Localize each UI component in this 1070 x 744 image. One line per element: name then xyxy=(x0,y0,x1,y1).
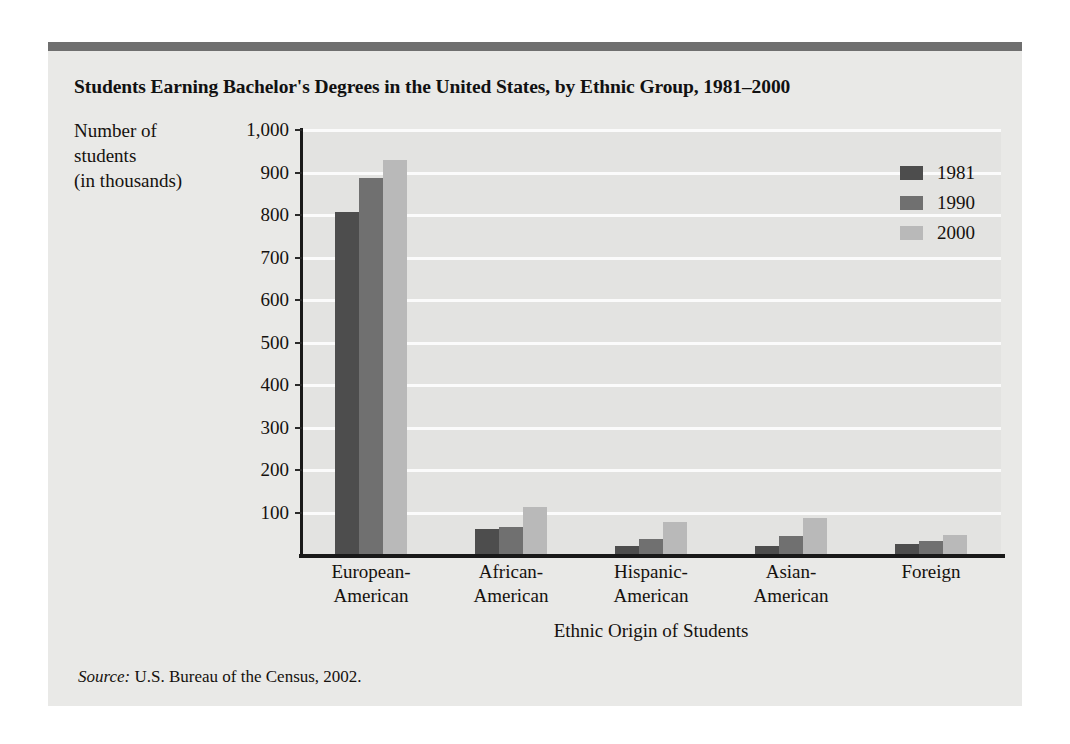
bar-foreign-1990 xyxy=(919,541,943,555)
x-axis-category-label: Foreign xyxy=(861,560,1001,584)
bar-european-american-1981 xyxy=(335,212,359,555)
bar-african-american-1981 xyxy=(475,529,499,555)
x-axis-category-label: African-American xyxy=(441,560,581,608)
x-axis-category-label-line: American xyxy=(581,584,721,608)
bar-african-american-2000 xyxy=(523,507,547,555)
y-axis-tick-mark xyxy=(295,342,302,344)
x-axis-category-label: Asian-American xyxy=(721,560,861,608)
x-axis-category-label-line: Hispanic- xyxy=(581,560,721,584)
y-axis-tick-label: 700 xyxy=(209,247,289,269)
y-axis-tick-mark xyxy=(295,469,302,471)
legend-label-2000: 2000 xyxy=(937,222,975,244)
bar-asian-american-2000 xyxy=(803,518,827,555)
y-axis-tick-mark xyxy=(295,512,302,514)
source-note: Source: U.S. Bureau of the Census, 2002. xyxy=(78,667,362,687)
plot-area xyxy=(301,130,1001,555)
y-axis-tick-mark xyxy=(295,129,302,131)
y-axis-tick-mark xyxy=(295,427,302,429)
bar-hispanic-american-2000 xyxy=(663,522,687,555)
x-axis-category-label-line: European- xyxy=(301,560,441,584)
bar-asian-american-1990 xyxy=(779,536,803,555)
x-axis-category-label-line: American xyxy=(301,584,441,608)
bar-european-american-2000 xyxy=(383,160,407,555)
y-axis-tick-mark xyxy=(295,214,302,216)
bar-european-american-1990 xyxy=(359,178,383,555)
y-axis-tick-mark xyxy=(295,384,302,386)
x-axis-category-label-line: Foreign xyxy=(861,560,1001,584)
x-axis-category-label-line: American xyxy=(441,584,581,608)
source-label: Source: xyxy=(78,667,130,686)
gridline xyxy=(301,129,1001,132)
x-axis-category-label-line: American xyxy=(721,584,861,608)
x-axis-category-label: European-American xyxy=(301,560,441,608)
legend-label-1981: 1981 xyxy=(937,162,975,184)
chart-legend: 198119902000 xyxy=(900,162,975,252)
y-axis-tick-label: 400 xyxy=(209,374,289,396)
legend-item-1990: 1990 xyxy=(900,192,975,214)
x-axis-title: Ethnic Origin of Students xyxy=(301,620,1001,642)
chart-title: Students Earning Bachelor's Degrees in t… xyxy=(74,76,994,98)
legend-swatch-1981 xyxy=(900,166,923,180)
figure-card: Students Earning Bachelor's Degrees in t… xyxy=(48,42,1022,706)
y-axis-tick-mark xyxy=(295,257,302,259)
legend-swatch-2000 xyxy=(900,226,923,240)
bar-african-american-1990 xyxy=(499,527,523,555)
y-axis-tick-label: 800 xyxy=(209,204,289,226)
top-rule-decoration xyxy=(48,42,1022,51)
bar-foreign-2000 xyxy=(943,535,967,555)
x-axis-line xyxy=(299,554,1005,558)
y-axis-tick-label: 100 xyxy=(209,502,289,524)
y-axis-tick-label: 200 xyxy=(209,459,289,481)
x-axis-category-label: Hispanic-American xyxy=(581,560,721,608)
legend-item-1981: 1981 xyxy=(900,162,975,184)
y-axis-tick-label: 300 xyxy=(209,417,289,439)
legend-swatch-1990 xyxy=(900,196,923,210)
legend-label-1990: 1990 xyxy=(937,192,975,214)
y-axis-tick-label: 500 xyxy=(209,332,289,354)
x-axis-category-label-line: Asian- xyxy=(721,560,861,584)
y-axis-tick-label: 600 xyxy=(209,289,289,311)
y-axis-tick-mark xyxy=(295,172,302,174)
y-axis-tick-mark xyxy=(295,299,302,301)
source-value: U.S. Bureau of the Census, 2002. xyxy=(130,667,361,686)
legend-item-2000: 2000 xyxy=(900,222,975,244)
bar-hispanic-american-1990 xyxy=(639,539,663,555)
y-axis-tick-label: 1,000 xyxy=(209,119,289,141)
x-axis-category-label-line: African- xyxy=(441,560,581,584)
y-axis-tick-label: 900 xyxy=(209,162,289,184)
